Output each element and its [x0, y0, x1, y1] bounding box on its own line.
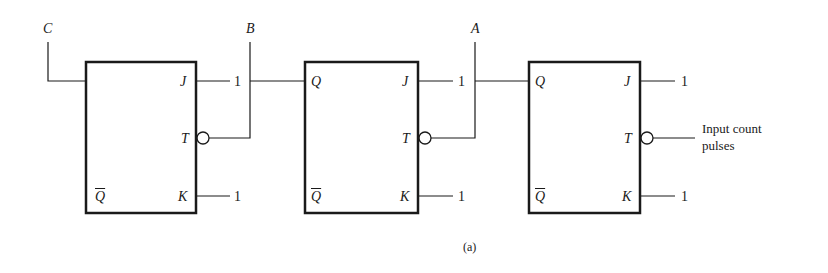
- input-label-line1: Input count: [702, 121, 762, 136]
- ff1-k-label: K: [178, 190, 187, 204]
- signal-c-label: C: [43, 22, 52, 36]
- ff2-k-label: K: [400, 190, 409, 204]
- ff1-t-label: T: [181, 132, 189, 146]
- signal-b-label: B: [246, 22, 255, 36]
- ff3-qbar-label: Q: [535, 190, 545, 204]
- circuit-wiring: [0, 0, 828, 273]
- ff3-t-label: T: [624, 132, 632, 146]
- ff2-j-label: J: [402, 75, 408, 89]
- ff3-j-value: 1: [681, 75, 688, 89]
- ff3-t-bubble: [641, 132, 653, 144]
- signal-a-label: A: [471, 22, 480, 36]
- ff1-j-value: 1: [234, 75, 241, 89]
- ff1-j-label: J: [180, 75, 186, 89]
- ff2-t-label: T: [402, 132, 410, 146]
- ff2-t-bubble: [419, 132, 431, 144]
- ff1-k-value: 1: [234, 190, 241, 204]
- ff3-q-label: Q: [535, 75, 545, 89]
- wire-a: [431, 42, 475, 138]
- ff3-k-value: 1: [681, 190, 688, 204]
- wire-c: [48, 42, 86, 81]
- ff2-qbar-label: Q: [311, 190, 321, 204]
- ff1-t-bubble: [197, 132, 209, 144]
- ff1-qbar-label: Q: [95, 190, 105, 204]
- ff2-q-label: Q: [311, 75, 321, 89]
- ff3-k-label: K: [622, 190, 631, 204]
- figure-caption: (a): [463, 240, 476, 255]
- wire-b: [209, 42, 250, 138]
- input-label-line2: pulses: [702, 138, 735, 153]
- ff2-j-value: 1: [458, 75, 465, 89]
- ff2-k-value: 1: [458, 190, 465, 204]
- ff3-j-label: J: [624, 75, 630, 89]
